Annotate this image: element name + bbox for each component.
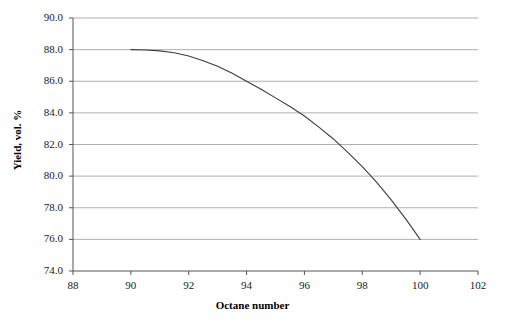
y-tick-label: 82.0 (21, 139, 63, 150)
y-tick-label: 78.0 (21, 202, 63, 213)
x-tick-marks-group (73, 271, 478, 275)
y-axis-title: Yield, vol. % (11, 90, 23, 190)
x-tick-label: 88 (53, 280, 93, 291)
y-tick-label: 88.0 (21, 44, 63, 55)
y-tick-label: 90.0 (21, 12, 63, 23)
x-axis-title: Octane number (0, 299, 505, 311)
y-tick-label: 80.0 (21, 170, 63, 181)
y-tick-marks-group (69, 18, 73, 271)
x-tick-label: 98 (342, 280, 382, 291)
y-tick-label: 76.0 (21, 233, 63, 244)
x-tick-label: 90 (111, 280, 151, 291)
x-tick-label: 100 (400, 280, 440, 291)
x-tick-label: 102 (458, 280, 498, 291)
x-tick-label: 92 (169, 280, 209, 291)
plot-area (0, 0, 505, 326)
y-tick-label: 84.0 (21, 107, 63, 118)
y-tick-label: 86.0 (21, 75, 63, 86)
gridlines-group (73, 18, 478, 239)
y-tick-label: 74.0 (21, 265, 63, 276)
x-tick-label: 94 (227, 280, 267, 291)
chart-figure: 74.076.078.080.082.084.086.088.090.0 889… (0, 0, 505, 326)
x-tick-label: 96 (284, 280, 324, 291)
